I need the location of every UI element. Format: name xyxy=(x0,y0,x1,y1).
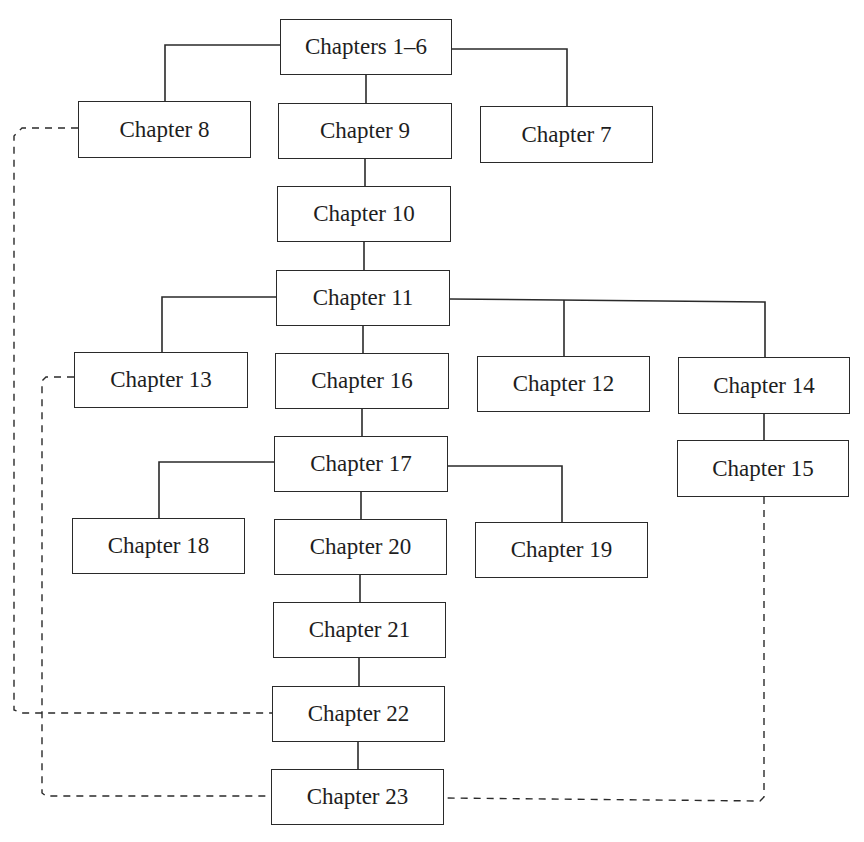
chapter-box-ch7: Chapter 7 xyxy=(480,106,653,163)
chapter-box-ch14: Chapter 14 xyxy=(678,357,850,414)
chapter-label: Chapter 15 xyxy=(712,456,814,482)
chapter-label: Chapter 23 xyxy=(307,784,409,810)
chapter-box-ch1_6: Chapters 1–6 xyxy=(280,19,452,75)
solid-connector-ch1_6-ch7 xyxy=(452,49,567,106)
chapter-dependency-diagram: Chapters 1–6Chapter 8Chapter 9Chapter 7C… xyxy=(0,0,864,842)
dashed-connector-ch13-ch23 xyxy=(42,377,271,796)
solid-connector-ch11-ch13 xyxy=(162,297,276,352)
chapter-label: Chapter 9 xyxy=(320,118,410,144)
chapter-box-ch20: Chapter 20 xyxy=(274,519,447,575)
chapter-label: Chapter 8 xyxy=(119,117,209,143)
chapter-label: Chapter 17 xyxy=(310,451,412,477)
chapter-box-ch8: Chapter 8 xyxy=(78,101,251,158)
chapter-box-ch19: Chapter 19 xyxy=(475,522,648,578)
chapter-label: Chapter 10 xyxy=(313,201,415,227)
chapter-box-ch22: Chapter 22 xyxy=(272,686,445,742)
chapter-label: Chapter 22 xyxy=(308,701,410,727)
chapter-label: Chapters 1–6 xyxy=(305,34,427,60)
chapter-box-ch13: Chapter 13 xyxy=(74,352,248,408)
chapter-label: Chapter 18 xyxy=(108,533,210,559)
chapter-box-ch16: Chapter 16 xyxy=(275,353,449,409)
chapter-label: Chapter 19 xyxy=(511,537,613,563)
solid-connector-ch1_6-ch8 xyxy=(165,45,280,101)
chapter-box-ch10: Chapter 10 xyxy=(277,186,451,242)
chapter-label: Chapter 21 xyxy=(309,617,411,643)
chapter-box-ch18: Chapter 18 xyxy=(72,518,245,574)
chapter-box-ch17: Chapter 17 xyxy=(274,436,448,492)
chapter-label: Chapter 20 xyxy=(310,534,412,560)
chapter-box-ch12: Chapter 12 xyxy=(477,356,650,412)
dashed-connector-ch8-ch22 xyxy=(14,128,272,713)
chapter-label: Chapter 11 xyxy=(313,285,414,311)
solid-connector-ch11-ch12 xyxy=(450,299,765,357)
chapter-box-ch9: Chapter 9 xyxy=(278,103,452,159)
chapter-label: Chapter 13 xyxy=(110,367,212,393)
chapter-box-ch21: Chapter 21 xyxy=(273,602,446,658)
solid-connector-ch17-ch19 xyxy=(448,466,562,522)
chapter-label: Chapter 7 xyxy=(521,122,611,148)
chapter-box-ch15: Chapter 15 xyxy=(677,440,849,497)
chapter-label: Chapter 12 xyxy=(513,371,615,397)
solid-connector-ch17-ch18 xyxy=(159,462,274,518)
chapter-label: Chapter 16 xyxy=(311,368,413,394)
chapter-box-ch23: Chapter 23 xyxy=(271,769,444,825)
chapter-box-ch11: Chapter 11 xyxy=(276,270,450,326)
chapter-label: Chapter 14 xyxy=(713,373,815,399)
